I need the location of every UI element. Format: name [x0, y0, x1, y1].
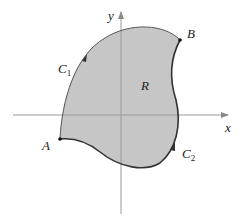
curve-c2-label: C2	[182, 146, 195, 163]
point-b-label: B	[187, 26, 195, 41]
curve-c1-label-subscript: 1	[67, 68, 72, 78]
region-r-label: R	[140, 78, 149, 93]
point-a	[58, 137, 62, 141]
curve-c2-label-subscript: 2	[191, 153, 196, 163]
curve-c1-label: C1	[58, 61, 71, 78]
x-axis-label: x	[224, 120, 231, 135]
y-axis-label: y	[106, 8, 114, 23]
curve-c1-label-main: C	[58, 61, 67, 76]
diagram-canvas: x y A B R C1 C2	[0, 0, 245, 224]
region-r	[60, 27, 180, 168]
curve-c2-label-main: C	[182, 146, 191, 161]
point-a-label: A	[41, 138, 50, 153]
point-b	[178, 38, 182, 42]
